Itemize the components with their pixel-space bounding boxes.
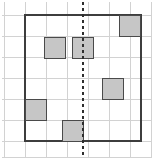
grid-diagram <box>0 0 153 160</box>
figure-container <box>0 0 153 160</box>
shaded-square-middle-right <box>103 79 124 100</box>
shaded-square-top-right <box>120 16 141 37</box>
shaded-square-upper-left <box>45 38 66 59</box>
shaded-square-lower-left <box>26 100 47 121</box>
shaded-square-bottom-center <box>63 121 84 142</box>
